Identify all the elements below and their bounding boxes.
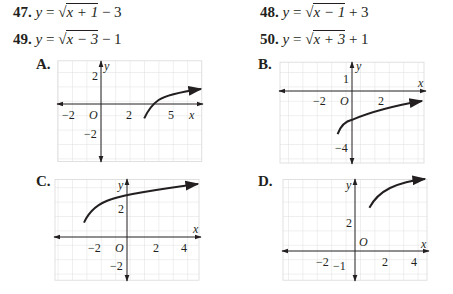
svg-text:O: O [115,241,124,255]
svg-text:−2: −2 [316,255,329,269]
svg-text:4: 4 [411,255,417,269]
graph-a: −2 O 2 5 x 2 y −2 [57,59,203,162]
svg-text:2: 2 [382,255,388,269]
svg-text:y: y [117,178,124,192]
svg-text:x: x [192,222,199,236]
svg-text:2: 2 [346,216,352,230]
svg-text:y: y [103,59,110,73]
svg-text:−2: −2 [88,241,101,255]
graph-c: −2 O 2 4 x 2 y −2 [54,178,201,281]
svg-text:−4: −4 [335,141,348,155]
svg-text:y: y [345,178,352,192]
svg-text:2: 2 [378,94,384,108]
svg-text:1: 1 [343,72,349,86]
svg-text:4: 4 [181,241,187,255]
graph-d: −2 O 2 4 x 2 y −1 [282,178,429,281]
svg-text:O: O [340,94,349,108]
svg-text:−2: −2 [313,94,326,108]
svg-text:2: 2 [153,241,159,255]
graphs-canvas: −2 O 2 5 x 2 y −2 −2 O 2 x 1 y −4 −2 O 2… [0,0,453,294]
svg-text:5: 5 [168,108,174,122]
origin-label: O [89,108,98,122]
svg-text:x: x [417,76,424,90]
svg-text:x: x [420,237,427,251]
svg-text:O: O [359,235,368,249]
svg-text:x: x [188,108,195,122]
svg-text:y: y [355,59,362,73]
svg-text:2: 2 [126,108,132,122]
svg-text:−1: −1 [333,259,346,273]
svg-text:−2: −2 [110,259,123,273]
svg-text:2: 2 [118,202,124,216]
graph-b: −2 O 2 x 1 y −4 [279,59,426,164]
svg-text:2: 2 [92,69,98,83]
svg-text:−2: −2 [84,127,97,141]
svg-text:−2: −2 [62,108,75,122]
